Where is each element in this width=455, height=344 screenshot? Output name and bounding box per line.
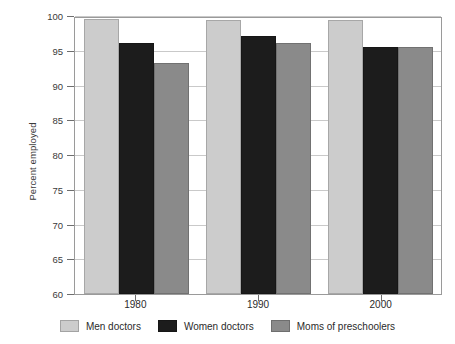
y-axis-title: Percent employed <box>27 82 38 242</box>
y-tick-mark <box>67 225 74 226</box>
y-tick-mark <box>67 120 74 121</box>
legend-item[interactable]: Women doctors <box>158 320 254 332</box>
plot-area: 6065707580859095100 <box>74 17 442 295</box>
y-tick-label: 85 <box>52 115 63 126</box>
y-tick-label: 70 <box>52 219 63 230</box>
bar-fill <box>398 47 433 294</box>
legend-label: Women doctors <box>184 321 254 332</box>
y-tick-label: 75 <box>52 184 63 195</box>
legend-swatch <box>158 320 177 332</box>
bar[interactable] <box>398 18 433 294</box>
y-tick-mark <box>67 190 74 191</box>
chart-legend: Men doctorsWomen doctorsMoms of preschoo… <box>0 320 455 332</box>
bar[interactable] <box>363 18 398 294</box>
x-tick-label: 2000 <box>370 299 392 310</box>
bar[interactable] <box>206 18 241 294</box>
legend-item[interactable]: Men doctors <box>60 320 141 332</box>
bar-fill <box>119 43 154 294</box>
y-tick-label: 65 <box>52 254 63 265</box>
y-tick-mark <box>67 259 74 260</box>
y-tick-mark <box>67 51 74 52</box>
bar-chart: Percent employed 6065707580859095100 198… <box>0 0 455 344</box>
bar[interactable] <box>328 18 363 294</box>
bar[interactable] <box>154 18 189 294</box>
bar-fill <box>154 63 189 294</box>
bar-fill <box>276 43 311 294</box>
x-tick-label: 1990 <box>247 299 269 310</box>
bar-group <box>84 18 189 294</box>
gridline <box>75 16 441 17</box>
y-tick-mark <box>67 16 74 17</box>
legend-swatch <box>60 320 79 332</box>
y-tick-label: 95 <box>52 45 63 56</box>
bar[interactable] <box>241 18 276 294</box>
x-tick-label: 1980 <box>124 299 146 310</box>
y-tick-mark <box>67 155 74 156</box>
bar-fill <box>206 20 241 294</box>
y-tick-label: 80 <box>52 150 63 161</box>
bar[interactable] <box>119 18 154 294</box>
bar-group <box>328 18 433 294</box>
legend-item[interactable]: Moms of preschoolers <box>271 320 395 332</box>
bar[interactable] <box>84 18 119 294</box>
bar[interactable] <box>276 18 311 294</box>
bar-fill <box>363 47 398 294</box>
bar-group <box>206 18 311 294</box>
legend-label: Moms of preschoolers <box>297 321 395 332</box>
y-tick-mark <box>67 294 74 295</box>
legend-label: Men doctors <box>86 321 141 332</box>
y-tick-label: 90 <box>52 80 63 91</box>
bar-fill <box>328 20 363 294</box>
bars-layer <box>75 18 441 294</box>
legend-swatch <box>271 320 290 332</box>
y-tick-mark <box>67 86 74 87</box>
y-tick-label: 100 <box>47 11 63 22</box>
bar-fill <box>84 19 119 294</box>
y-tick-label: 60 <box>52 289 63 300</box>
bar-fill <box>241 36 276 294</box>
